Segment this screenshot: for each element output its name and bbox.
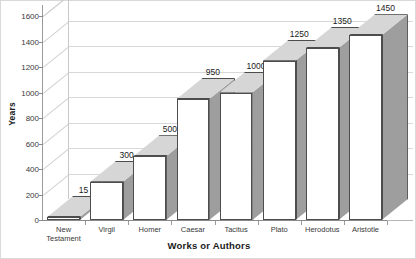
y-tick-mark xyxy=(39,144,43,145)
bar-value-label: 1450 xyxy=(369,3,402,13)
x-tick-mark xyxy=(387,221,388,225)
bar-chart: Years 02004006008001000120014001600 1530… xyxy=(0,0,416,259)
bar[interactable] xyxy=(133,5,166,221)
bar[interactable] xyxy=(177,5,210,221)
y-axis-title: Years xyxy=(7,84,17,144)
bar-front-face xyxy=(133,156,166,220)
bar[interactable] xyxy=(306,5,339,221)
y-tick-mark xyxy=(39,42,43,43)
x-axis-title: Works or Authors xyxy=(1,240,416,251)
y-tick-mark xyxy=(39,169,43,170)
bar-front-face xyxy=(263,61,296,220)
y-tick-mark xyxy=(39,67,43,68)
y-tick-label: 800 xyxy=(26,114,39,123)
bar-side-face xyxy=(382,14,408,220)
bar-front-face xyxy=(90,182,123,220)
bar[interactable] xyxy=(220,5,253,221)
plot-area: 02004006008001000120014001600 1530050095… xyxy=(42,5,412,221)
y-tick-label: 600 xyxy=(26,139,39,148)
bar-front-face xyxy=(349,35,382,220)
y-tick-label: 1600 xyxy=(21,12,39,21)
y-tick-label: 1400 xyxy=(21,37,39,46)
x-category-label: Aristotle xyxy=(338,225,393,234)
y-axis-line xyxy=(42,5,43,221)
y-tick-mark xyxy=(39,220,43,221)
y-tick-label: 200 xyxy=(26,190,39,199)
y-tick-mark xyxy=(39,93,43,94)
bar[interactable] xyxy=(90,5,123,221)
axis-floor-diagonal xyxy=(387,220,413,221)
bar-front-face xyxy=(177,99,210,220)
y-tick-mark xyxy=(39,16,43,17)
y-tick-mark xyxy=(39,118,43,119)
y-tick-label: 1000 xyxy=(21,88,39,97)
bar[interactable] xyxy=(349,5,382,221)
y-tick-label: 1200 xyxy=(21,63,39,72)
y-tick-mark xyxy=(39,195,43,196)
y-tick-label: 400 xyxy=(26,165,39,174)
bar-front-face xyxy=(306,48,339,220)
bar-front-face xyxy=(220,93,253,221)
bar-front-face xyxy=(47,217,80,220)
